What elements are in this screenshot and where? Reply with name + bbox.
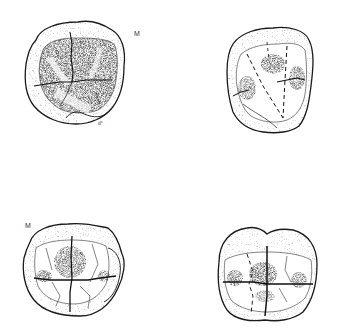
panel-bottom-right <box>169 166 338 332</box>
panel-top-right <box>169 0 338 166</box>
mesial-label: M <box>25 222 31 229</box>
annotation-label: d° <box>98 121 103 126</box>
molar-occlusal-illustration-3 <box>0 166 169 332</box>
molar-occlusal-illustration-2 <box>169 0 338 166</box>
panel-top-left: M d° <box>0 0 169 166</box>
molar-occlusal-illustration-4 <box>169 166 338 332</box>
mesial-label: M <box>134 30 140 37</box>
molar-occlusal-illustration-1 <box>0 0 169 166</box>
panel-bottom-left: M <box>0 166 169 332</box>
